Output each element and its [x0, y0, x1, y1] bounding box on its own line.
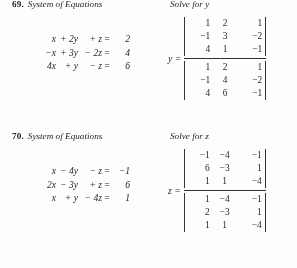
equation-term-3: + z: [78, 178, 102, 192]
determinant-cell: −1: [238, 43, 264, 56]
equation-term-3: − 2z: [78, 46, 102, 60]
determinant-cell: −1: [186, 149, 212, 162]
equation-row: 4x + y − z = 6: [34, 59, 164, 73]
determinant-cell: −4: [238, 219, 264, 232]
equation-term-3: − z: [78, 59, 102, 73]
determinant-cell: −1: [186, 30, 212, 43]
equation-equals-sign: =: [102, 191, 112, 205]
equation-equals-sign: =: [102, 46, 112, 60]
problem-69-title: System of Equations: [28, 0, 103, 9]
problem-70-cramer-expression: z = −1 −4 −1 6 −3 1 1 1 −4: [168, 148, 297, 233]
problem-70-numerator-determinant: −1 −4 −1 6 −3 1 1 1 −4: [184, 148, 266, 189]
equation-equals-sign: =: [102, 59, 112, 73]
problem-70-denominator-determinant: 1 −4 −1 2 −3 1 1 1 −4: [184, 192, 266, 233]
problem-70-fraction-bar: [184, 190, 266, 191]
equation-row: x − 4y − z = −1: [34, 164, 164, 178]
determinant-cell: 1: [212, 175, 238, 188]
equation-term-3: + z: [78, 32, 102, 46]
determinant-cell: −4: [238, 175, 264, 188]
problem-69-left-column: 69.System of Equations x + 2y + z = 2 −x…: [12, 0, 164, 73]
equation-term-3: − z: [78, 164, 102, 178]
determinant-cell: −2: [238, 30, 264, 43]
determinant-cell: −1: [186, 74, 212, 87]
problem-69-numerator-determinant: 1 2 1 −1 3 −2 4 1 −1: [184, 16, 266, 57]
equation-right-hand-side: 6: [112, 178, 130, 192]
determinant-cell: −3: [212, 206, 238, 219]
determinant-cell: −2: [238, 74, 264, 87]
determinant-cell: 4: [212, 74, 238, 87]
determinant-cell: 1: [212, 219, 238, 232]
problem-70-solve-label: Solve for z: [170, 132, 297, 141]
determinant-cell: −4: [212, 149, 238, 162]
problem-70-fraction: −1 −4 −1 6 −3 1 1 1 −4: [184, 148, 266, 233]
equation-row: x + y − 4z = 1: [34, 191, 164, 205]
equation-term-2: − 4y: [56, 164, 78, 178]
determinant-cell: 2: [186, 206, 212, 219]
equation-term-2: + y: [56, 59, 78, 73]
determinant-cell: 2: [212, 61, 238, 74]
problem-70-right-column: Solve for z z = −1 −4 −1 6 −3 1 1: [168, 132, 297, 233]
problem-69-system-of-equations: x + 2y + z = 2 −x + 3y − 2z = 4 4x + y −: [12, 32, 164, 73]
equation-equals-sign: =: [102, 164, 112, 178]
determinant-right-bar: [265, 149, 266, 188]
equation-row: −x + 3y − 2z = 4: [34, 46, 164, 60]
equation-term-1: x: [34, 164, 56, 178]
determinant-right-bar: [265, 61, 266, 100]
problem-69-number: 69.: [12, 0, 24, 9]
equation-right-hand-side: −1: [112, 164, 130, 178]
equation-equals-sign: =: [102, 32, 112, 46]
determinant-cell: 1: [238, 61, 264, 74]
determinant-cell: 6: [212, 87, 238, 100]
determinant-cell: 1: [212, 43, 238, 56]
determinant-cell: −4: [212, 193, 238, 206]
determinant-cell: 3: [212, 30, 238, 43]
problem-69-cramer-expression: y = 1 2 1 −1 3 −2 4 1 −1: [168, 16, 297, 101]
equation-term-1: x: [34, 191, 56, 205]
determinant-cell: 1: [238, 162, 264, 175]
equation-row: x + 2y + z = 2: [34, 32, 164, 46]
determinant-cell: −1: [238, 193, 264, 206]
determinant-grid: 1 2 1 −1 3 −2 4 1 −1: [185, 17, 265, 56]
determinant-grid: −1 −4 −1 6 −3 1 1 1 −4: [185, 149, 265, 188]
problem-69-solve-label: Solve for y: [170, 0, 297, 9]
determinant-right-bar: [265, 193, 266, 232]
determinant-cell: 2: [212, 17, 238, 30]
textbook-page: 69.System of Equations x + 2y + z = 2 −x…: [0, 0, 297, 268]
equation-term-1: x: [34, 32, 56, 46]
problem-69-denominator-determinant: 1 2 1 −1 4 −2 4 6 −1: [184, 60, 266, 101]
problem-70-number: 70.: [12, 131, 24, 141]
problem-69-variable-label: y =: [168, 53, 184, 65]
determinant-cell: 1: [238, 17, 264, 30]
equation-term-1: 2x: [34, 178, 56, 192]
determinant-cell: 4: [186, 43, 212, 56]
equation-right-hand-side: 4: [112, 46, 130, 60]
determinant-cell: 1: [186, 17, 212, 30]
equation-term-2: − 3y: [56, 178, 78, 192]
equation-term-1: −x: [34, 46, 56, 60]
determinant-grid: 1 −4 −1 2 −3 1 1 1 −4: [185, 193, 265, 232]
problem-70-variable-label: z =: [168, 185, 184, 197]
equation-equals-sign: =: [102, 178, 112, 192]
determinant-cell: −1: [238, 87, 264, 100]
equation-term-2: + 3y: [56, 46, 78, 60]
determinant-cell: −1: [238, 149, 264, 162]
determinant-right-bar: [265, 17, 266, 56]
equation-right-hand-side: 2: [112, 32, 130, 46]
determinant-grid: 1 2 1 −1 4 −2 4 6 −1: [185, 61, 265, 100]
equation-term-2: + y: [56, 191, 78, 205]
problem-70-left-column: 70.System of Equations x − 4y − z = −1 2…: [12, 132, 164, 205]
problem-69-fraction: 1 2 1 −1 3 −2 4 1 −1: [184, 16, 266, 101]
determinant-cell: −3: [212, 162, 238, 175]
determinant-cell: 1: [186, 175, 212, 188]
equation-right-hand-side: 6: [112, 59, 130, 73]
equation-term-2: + 2y: [56, 32, 78, 46]
equation-term-3: − 4z: [78, 191, 102, 205]
problem-69-fraction-bar: [184, 58, 266, 59]
problem-69-heading: 69.System of Equations: [12, 0, 164, 9]
equation-right-hand-side: 1: [112, 191, 130, 205]
problem-70-heading: 70.System of Equations: [12, 132, 164, 141]
equation-row: 2x − 3y + z = 6: [34, 178, 164, 192]
determinant-cell: 4: [186, 87, 212, 100]
determinant-cell: 1: [238, 206, 264, 219]
equation-term-1: 4x: [34, 59, 56, 73]
